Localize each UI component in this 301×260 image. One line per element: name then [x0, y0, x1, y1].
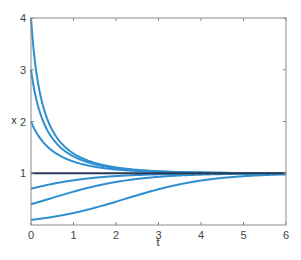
x-tick-label: 6 — [283, 229, 289, 241]
axes-box — [31, 18, 286, 225]
x-tick-label: 5 — [240, 229, 246, 241]
y-tick-label: 4 — [20, 12, 26, 24]
solution-curve — [31, 122, 286, 174]
y-tick-label: 2 — [20, 116, 26, 128]
x-tick-label: 1 — [70, 229, 76, 241]
y-tick-label: 3 — [20, 64, 26, 76]
solution-curve — [31, 18, 286, 173]
solution-curve — [31, 70, 286, 173]
x-tick-label: 2 — [113, 229, 119, 241]
ticks-layer: 01234561234 — [20, 12, 289, 241]
chart: 01234561234 t x — [0, 0, 301, 260]
x-tick-label: 0 — [28, 229, 34, 241]
x-tick-label: 4 — [198, 229, 204, 241]
x-axis-label: t — [156, 236, 159, 248]
curves-layer — [31, 18, 286, 220]
y-axis-label: x — [11, 114, 17, 126]
y-tick-label: 1 — [20, 167, 26, 179]
